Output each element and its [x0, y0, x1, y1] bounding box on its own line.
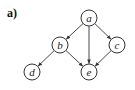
- node-e: e: [81, 64, 97, 80]
- node-label: a: [86, 12, 92, 24]
- node-label: b: [57, 39, 63, 51]
- node-c: c: [109, 37, 125, 53]
- edge-b-d: [38, 51, 54, 67]
- directed-graph: abcde: [0, 0, 135, 90]
- node-b: b: [52, 37, 68, 53]
- node-a: a: [81, 10, 97, 26]
- edge-a-c: [95, 24, 111, 40]
- edge-a-b: [66, 23, 83, 39]
- node-label: d: [29, 66, 35, 78]
- nodes: abcde: [24, 10, 125, 80]
- node-label: e: [87, 66, 92, 78]
- edge-b-e: [66, 50, 83, 66]
- edge-c-e: [95, 51, 111, 67]
- edges: [38, 23, 111, 66]
- node-label: c: [115, 39, 120, 51]
- node-d: d: [24, 64, 40, 80]
